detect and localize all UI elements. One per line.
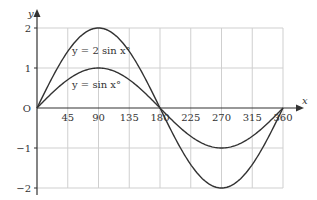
sine-chart: y x 459013518022527031536021O−1−2 y = 2 … bbox=[0, 0, 317, 200]
curve-label-2sin: y = 2 sin x° bbox=[71, 45, 131, 56]
x-axis-label: x bbox=[302, 95, 308, 106]
y-tick-label: −1 bbox=[16, 143, 31, 154]
y-axis-label: y bbox=[27, 8, 34, 19]
x-tick-label: 225 bbox=[181, 112, 200, 123]
axes: y x bbox=[27, 8, 308, 195]
x-tick-label: 135 bbox=[120, 112, 139, 123]
x-tick-label: 90 bbox=[92, 112, 105, 123]
y-tick-label: −2 bbox=[16, 183, 31, 194]
y-tick-label: 1 bbox=[25, 63, 31, 74]
y-tick-label: O bbox=[23, 103, 31, 114]
x-tick-label: 45 bbox=[61, 112, 74, 123]
x-tick-label: 315 bbox=[243, 112, 262, 123]
curve-label-sin: y = sin x° bbox=[71, 79, 121, 90]
x-tick-label: 270 bbox=[212, 112, 231, 123]
y-axis-arrow-icon bbox=[34, 9, 41, 17]
y-tick-label: 2 bbox=[25, 23, 31, 34]
